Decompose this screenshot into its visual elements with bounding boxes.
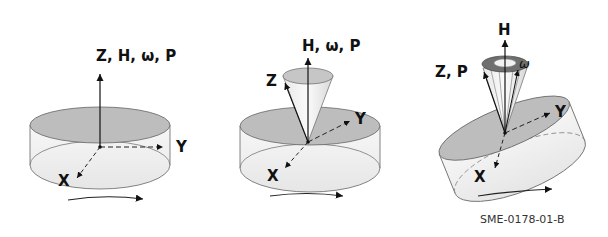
x-axis-label: X: [267, 167, 279, 185]
z-axis-label: Z: [266, 72, 277, 90]
y-axis-label: Y: [554, 103, 567, 121]
panel-1: Z, H, ω, P Y X: [30, 47, 188, 200]
z-p-axis-label: Z, P: [435, 63, 468, 81]
y-axis-label: Y: [175, 138, 188, 156]
omega-label: ω: [519, 56, 530, 71]
figure-id-caption: SME-0178-01-B: [480, 213, 564, 226]
panel-3: H Z, P ω Y X: [432, 21, 594, 216]
x-axis-label: X: [474, 168, 486, 186]
x-axis-label: X: [58, 172, 70, 190]
up-axis-label: Z, H, ω, P: [96, 47, 176, 65]
up-axis-label: H, ω, P: [302, 37, 360, 55]
diagram-canvas: Z, H, ω, P Y X H, ω, P Z Y X: [0, 0, 608, 237]
panel-2: H, ω, P Z Y X: [240, 37, 380, 196]
rotation-arrow-icon: [68, 197, 143, 200]
up-axis-label: H: [498, 21, 511, 39]
rotation-arrow-icon: [270, 194, 343, 197]
y-axis-label: Y: [354, 110, 367, 128]
